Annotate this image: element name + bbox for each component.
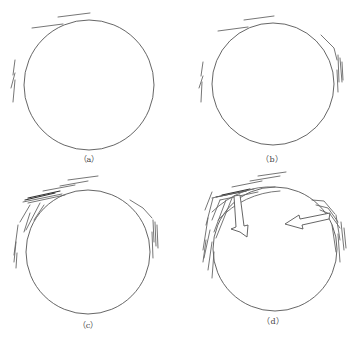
cracks-a	[11, 13, 90, 102]
label-b: （b）	[261, 155, 282, 164]
label-c: （c）	[78, 321, 98, 330]
circle-b	[212, 23, 334, 145]
cracks-b	[199, 16, 343, 102]
arrow-left-icon	[285, 213, 330, 229]
figure-canvas: （a） （b）	[0, 0, 358, 342]
arrow-down-icon	[231, 195, 248, 237]
panel-b: （b）	[199, 16, 343, 164]
panel-d: （d）	[203, 172, 346, 326]
circle-a	[24, 20, 154, 150]
label-a: （a）	[79, 155, 100, 164]
cracks-d	[203, 172, 346, 278]
panel-c: （c）	[14, 176, 158, 330]
label-d: （d）	[262, 317, 283, 326]
circle-c	[26, 190, 150, 314]
panel-a: （a）	[11, 13, 154, 164]
